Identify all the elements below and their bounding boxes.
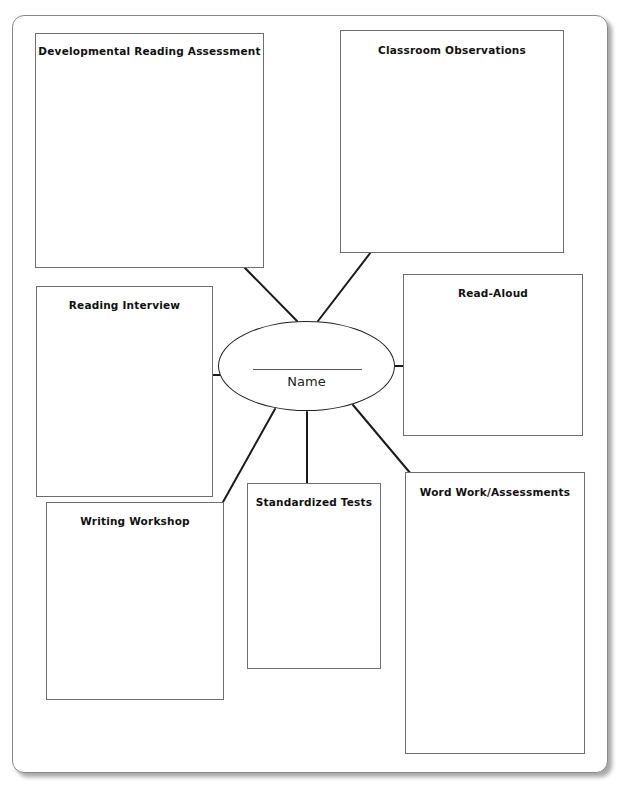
box-classroom-observations[interactable]: Classroom Observations [340, 30, 564, 253]
name-blank-line[interactable] [253, 369, 362, 370]
box-standardized-tests[interactable]: Standardized Tests [247, 483, 381, 669]
box-title: Reading Interview [37, 299, 212, 311]
box-read-aloud[interactable]: Read-Aloud [403, 274, 583, 436]
center-name-oval: Name [218, 321, 395, 411]
box-title: Word Work/Assessments [406, 486, 584, 498]
box-title: Classroom Observations [341, 44, 563, 56]
box-word-work-assessments[interactable]: Word Work/Assessments [405, 472, 585, 754]
box-writing-workshop[interactable]: Writing Workshop [46, 502, 224, 700]
box-title: Developmental Reading Assessment [36, 45, 263, 57]
box-title: Standardized Tests [248, 496, 380, 508]
box-reading-interview[interactable]: Reading Interview [36, 286, 213, 497]
box-title: Writing Workshop [47, 515, 223, 527]
box-title: Read-Aloud [404, 287, 582, 299]
box-developmental-reading-assessment[interactable]: Developmental Reading Assessment [35, 33, 264, 268]
name-label: Name [219, 374, 394, 389]
